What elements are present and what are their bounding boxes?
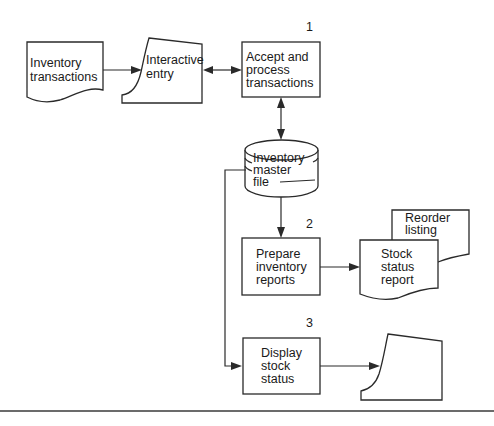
process-3-label-line-3: status	[261, 372, 294, 386]
arrow-process1-masterfile-bidirectional	[277, 97, 285, 140]
inventory-transactions-label-line-1: Inventory	[30, 56, 82, 70]
stock-status-report-document: Stock status report	[360, 240, 438, 299]
process-1-label-line-1: Accept and	[246, 50, 309, 64]
inventory-transactions-label-line-2: transactions	[30, 70, 97, 84]
inventory-master-file-disk: Inventory master file	[245, 140, 318, 197]
process-2-label-line-1: Prepare	[256, 247, 301, 261]
process-1-label-line-2: process	[246, 63, 290, 77]
process-1-number: 1	[306, 20, 313, 34]
inventory-system-flowchart: Inventory transactions Interactive entry…	[0, 0, 494, 426]
inventory-transactions-document: Inventory transactions	[27, 42, 103, 102]
process-3-box: 3 Display stock status	[243, 316, 320, 394]
stock-report-label-line-3: report	[381, 273, 414, 287]
process-2-number: 2	[306, 217, 313, 231]
stock-report-label-line-2: status	[381, 260, 414, 274]
process-3-number: 3	[306, 316, 313, 330]
arrow-transactions-to-entry	[103, 66, 142, 74]
interactive-entry-label-line-1: Interactive	[146, 53, 204, 67]
process-1-box: 1 Accept and process transactions	[242, 20, 320, 97]
process-3-label-line-2: stock	[261, 359, 291, 373]
process-2-label-line-3: reports	[256, 273, 295, 287]
process-2-label-line-2: inventory	[256, 260, 307, 274]
arrow-masterfile-to-process2	[277, 197, 285, 238]
arrow-entry-process1-bidirectional	[203, 66, 242, 74]
interactive-entry-label-line-2: entry	[146, 67, 175, 81]
stock-report-label-line-1: Stock	[381, 247, 413, 261]
arrow-process3-to-display	[320, 362, 380, 370]
reorder-listing-label-line-2: listing	[405, 223, 437, 237]
master-file-label-line-3: file	[253, 175, 269, 189]
arrow-process2-to-report	[320, 263, 360, 271]
process-3-label-line-1: Display	[261, 346, 303, 360]
process-1-label-line-3: transactions	[246, 76, 313, 90]
